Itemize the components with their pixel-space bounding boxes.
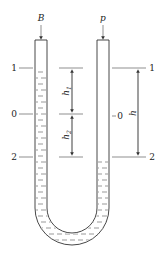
level-1-label-left: 1: [11, 63, 17, 73]
left-level-markers: 1 0 2: [11, 63, 33, 162]
level-0-label-left: 0: [11, 109, 17, 119]
level-2-label-left: 2: [11, 152, 17, 162]
level-1-label-right: 1: [149, 63, 155, 73]
label-h2: h2: [61, 130, 72, 140]
dimension-h1-h2: h1 h2: [59, 68, 83, 157]
label-B: B: [37, 13, 45, 23]
level-2-label-right: 2: [149, 152, 155, 162]
right-level-markers: 1 2 0 h: [112, 63, 155, 162]
level-0-label-right: 0: [117, 111, 123, 121]
label-p: p: [100, 13, 106, 23]
label-h1: h1: [61, 86, 72, 96]
label-h: h: [128, 110, 138, 116]
liquid-fill: [30, 72, 118, 246]
u-tube-manometer-diagram: B p 1 0 2 h1 h2: [0, 0, 166, 257]
